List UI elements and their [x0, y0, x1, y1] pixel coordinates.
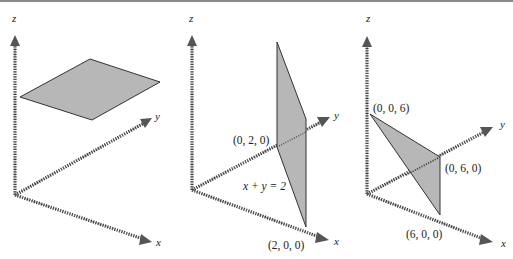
x-arrow-icon [479, 234, 493, 245]
x-arrow-icon [139, 234, 152, 245]
panel-3: z y x (0, 0, 6) (0, 6, 0) (6, 0, 0) [362, 12, 506, 249]
z-axis-label: z [188, 12, 194, 24]
z-axis-label: z [365, 12, 371, 24]
figure-three-planes: z y x z y x (0, 2, 0) x + y = 2 (2, 0, 0… [0, 0, 513, 259]
z-axis-label: z [11, 12, 17, 24]
y-axis-label: y [154, 110, 160, 122]
x-axis-label: x [155, 236, 161, 248]
vertical-plane [277, 42, 306, 227]
y-axis-label: y [499, 118, 505, 130]
point-label-0-6-0: (0, 6, 0) [445, 162, 482, 175]
z-arrow-icon [10, 35, 20, 46]
point-label-2-0-0: (2, 0, 0) [268, 239, 305, 252]
horizontal-plane [20, 59, 160, 120]
panel-3-axes [362, 36, 493, 245]
z-arrow-icon [362, 36, 372, 47]
x-axis-label: x [333, 235, 339, 247]
z-arrow-icon [187, 35, 197, 46]
x-arrow-icon [315, 232, 329, 243]
point-label-0-0-6: (0, 0, 6) [373, 102, 410, 115]
plane-equation: x + y = 2 [242, 180, 286, 193]
diagram-canvas: z y x z y x (0, 2, 0) x + y = 2 (2, 0, 0… [0, 2, 513, 259]
point-label-0-2-0: (0, 2, 0) [233, 134, 270, 147]
panel-1: z y x [10, 12, 161, 248]
x-axis-label: x [500, 237, 506, 249]
point-label-6-0-0: (6, 0, 0) [406, 228, 443, 241]
y-arrow-icon [317, 117, 330, 127]
y-axis-label: y [333, 109, 339, 121]
panel-2: z y x (0, 2, 0) x + y = 2 (2, 0, 0) [187, 12, 339, 252]
